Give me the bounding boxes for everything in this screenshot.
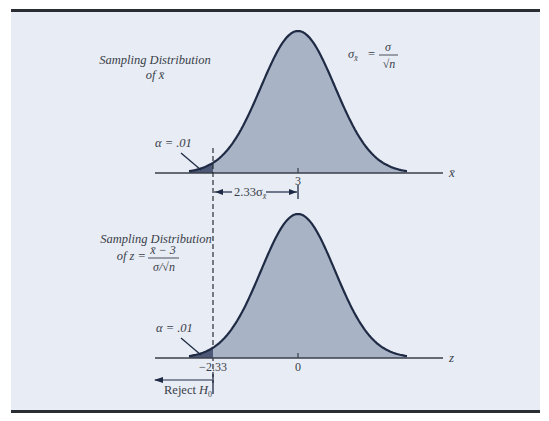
svg-text:2.33σx̄: 2.33σx̄	[234, 185, 267, 201]
svg-text:=: =	[368, 47, 375, 61]
svg-text:√n: √n	[383, 57, 396, 71]
bottom-frame-bar	[11, 410, 540, 413]
top-alpha-label: α = .01	[155, 136, 192, 150]
top-title-line2: of x̄	[146, 68, 165, 82]
bottom-tick-critical-label: −2.33	[199, 360, 227, 374]
svg-text:Reject H0: Reject H0	[164, 383, 212, 399]
top-frame-bar	[11, 9, 540, 12]
hypothesis-test-figure: 3 x̄ Sampling Distribution of x̄ σx̄ = σ…	[0, 0, 549, 421]
svg-text:σ/√n: σ/√n	[153, 260, 175, 274]
svg-text:x̄ − 3: x̄ − 3	[149, 243, 175, 257]
bottom-tick-zero-label: 0	[295, 360, 301, 374]
top-axis-label: x̄	[448, 165, 455, 180]
bottom-axis-label: z	[448, 350, 454, 365]
svg-text:of z =: of z =	[117, 249, 146, 263]
bottom-alpha-label: α = .01	[156, 321, 193, 335]
top-title-line1: Sampling Distribution	[99, 53, 210, 67]
